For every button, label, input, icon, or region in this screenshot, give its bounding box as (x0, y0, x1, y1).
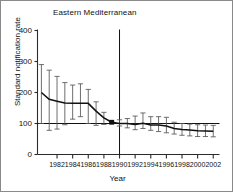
error-bar (133, 116, 138, 130)
error-bar (54, 76, 59, 129)
error-bar (140, 113, 145, 128)
error-bar (156, 117, 161, 132)
error-bar (70, 85, 75, 119)
series-marker-square (109, 120, 114, 125)
chart-figure: Eastern Mediterranean Standard notificat… (0, 0, 233, 192)
error-bar (86, 89, 91, 123)
chart-plot-area (1, 1, 234, 193)
error-bar (78, 84, 83, 117)
